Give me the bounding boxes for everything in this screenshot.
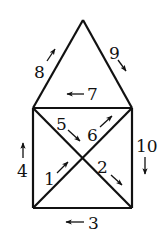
edge-label-8: 8	[34, 62, 45, 82]
edge-label-2: 2	[97, 157, 108, 177]
house-diagram: 8 9 7 5 6 4 10 1 2 3	[0, 0, 167, 234]
arrow-down-right-icon	[68, 130, 80, 141]
edge-label-9: 9	[109, 43, 120, 63]
arrow-up-right-icon	[57, 162, 68, 173]
edge-label-5: 5	[56, 114, 67, 134]
edge-label-7: 7	[87, 84, 98, 104]
edge-labels: 8 9 7 5 6 4 10 1 2 3	[17, 43, 158, 233]
edge-label-1: 1	[44, 169, 55, 189]
edge-label-4: 4	[17, 161, 28, 181]
arrow-up-right-icon	[100, 116, 112, 127]
edge-label-10: 10	[136, 136, 158, 156]
edge-label-3: 3	[88, 213, 99, 233]
arrow-up-right-icon	[47, 49, 55, 61]
arrow-down-right-icon	[111, 175, 122, 185]
edge-label-6: 6	[87, 125, 98, 145]
